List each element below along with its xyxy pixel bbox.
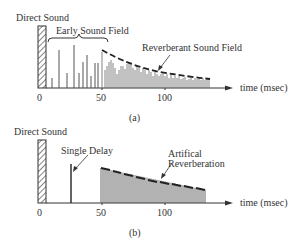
time-axis-label: time (msec) bbox=[240, 197, 287, 208]
reverb-envelope-dashed bbox=[102, 50, 210, 79]
early-field-label: Early Sound Field bbox=[56, 25, 129, 36]
caption-a: (a) bbox=[129, 112, 140, 123]
early-reflections bbox=[52, 45, 98, 88]
time-axis-label: time (msec) bbox=[240, 82, 287, 93]
direct-sound-label: Direct Sound bbox=[16, 12, 69, 23]
direct-sound-label: Direct Sound bbox=[14, 126, 67, 137]
artificial-reverb-label-2: Reverberation bbox=[168, 158, 225, 169]
reverberant-field-label: Reverberant Sound Field bbox=[142, 42, 242, 53]
tick-0: 0 bbox=[37, 207, 42, 218]
direct-sound-bar bbox=[38, 26, 46, 88]
tick-100: 100 bbox=[157, 207, 172, 218]
reverb-pointer-head bbox=[158, 65, 163, 71]
artificial-reverb-lines bbox=[101, 168, 205, 203]
tick-0: 0 bbox=[37, 92, 42, 103]
reverb-pointer-head bbox=[161, 173, 166, 179]
reverb-pointer-line bbox=[160, 55, 170, 68]
single-delay-label: Single Delay bbox=[61, 145, 113, 156]
tick-50: 50 bbox=[96, 92, 106, 103]
axis-arrow-head bbox=[225, 86, 233, 91]
tick-50: 50 bbox=[96, 207, 106, 218]
axis-arrow-head bbox=[225, 201, 233, 206]
delay-pointer-line bbox=[75, 155, 88, 169]
tick-100: 100 bbox=[157, 92, 172, 103]
caption-b: (b) bbox=[129, 227, 141, 238]
direct-sound-bar bbox=[38, 140, 46, 203]
reverberant-reflections bbox=[102, 52, 209, 88]
